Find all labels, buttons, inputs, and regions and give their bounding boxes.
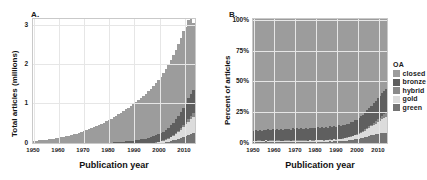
panel-a-gridline-x1960 (59, 19, 60, 143)
legend-swatch-gold (393, 96, 400, 103)
panel-a-ytick-1: 1 (12, 99, 28, 106)
legend-label-gold: gold (403, 95, 418, 104)
panel-a: A. Total articles (millions) 0 1 2 3 195… (0, 0, 213, 180)
panel-b-gridline-x1980 (316, 19, 317, 143)
panel-b-xtick-1970: 1970 (288, 147, 301, 153)
panel-b-ytick-100: 100% (227, 16, 249, 23)
panel-b-xlabel: Publication year (285, 160, 355, 170)
panel-b-gridline-y100 (253, 20, 387, 21)
panel-b: B. Percent of articles 0% 25% 50% 75% 10… (213, 0, 427, 180)
legend-label-green: green (403, 104, 423, 113)
legend-label-closed: closed (403, 70, 426, 79)
panel-b-gridline-x1950 (254, 19, 255, 143)
panel-b-ytick-0: 0% (227, 138, 249, 145)
panel-a-stacked-bars (33, 19, 196, 144)
panel-b-xtick-2010: 2010 (371, 147, 384, 153)
legend-label-hybrid: hybrid (403, 87, 425, 96)
panel-a-xtick-1990: 1990 (127, 147, 140, 153)
panel-a-xlabel: Publication year (79, 160, 149, 170)
legend-item-gold[interactable]: gold (393, 95, 426, 104)
legend-label-bronze: bronze (403, 78, 427, 87)
panel-a-gridline-y1 (33, 103, 195, 104)
legend-oa: OA closedbronzehybridgoldgreen (393, 61, 426, 112)
panel-a-xtick-1950: 1950 (26, 147, 39, 153)
legend-item-bronze[interactable]: bronze (393, 78, 426, 87)
panel-a-gridline-x2000 (160, 19, 161, 143)
panel-b-gridline-x1990 (337, 19, 338, 143)
panel-b-ytick-50: 50% (227, 77, 249, 84)
panel-a-gridline-y3 (33, 25, 195, 26)
panel-a-gridline-x1950 (34, 19, 35, 143)
panel-b-xtick-1990: 1990 (329, 147, 342, 153)
panel-a-gridline-x1990 (134, 19, 135, 143)
legend-items: closedbronzehybridgoldgreen (393, 70, 426, 113)
panel-a-ytick-0: 0 (12, 138, 28, 145)
panel-b-xtick-1960: 1960 (267, 147, 280, 153)
panel-b-gridline-y25 (253, 112, 387, 113)
legend-item-green[interactable]: green (393, 104, 426, 113)
legend-swatch-hybrid (393, 87, 400, 94)
legend-title: OA (393, 61, 426, 68)
panel-b-plot-area (252, 18, 388, 144)
legend-swatch-bronze (393, 79, 400, 86)
panel-b-xtick-1980: 1980 (308, 147, 321, 153)
panel-b-gridline-x2010 (379, 19, 380, 143)
panel-b-ytick-25: 25% (227, 107, 249, 114)
legend-swatch-closed (393, 70, 400, 77)
panel-a-xtick-1960: 1960 (51, 147, 64, 153)
panel-a-gridline-x1980 (109, 19, 110, 143)
legend-item-closed[interactable]: closed (393, 70, 426, 79)
panel-b-ylabel: Percent of articles (223, 56, 232, 125)
figure-open-access-articles: A. Total articles (millions) 0 1 2 3 195… (0, 0, 427, 180)
panel-a-gridline-y2 (33, 64, 195, 65)
panel-a-xtick-2000: 2000 (152, 147, 165, 153)
panel-a-xtick-2010: 2010 (177, 147, 190, 153)
panel-b-gridline-x2000 (358, 19, 359, 143)
legend-swatch-green (393, 104, 400, 111)
panel-a-gridline-x1970 (84, 19, 85, 143)
panel-a-ytick-3: 3 (12, 20, 28, 27)
panel-b-gridline-x1960 (274, 19, 275, 143)
panel-a-xtick-1980: 1980 (101, 147, 114, 153)
panel-a-ytick-2: 2 (12, 60, 28, 67)
panel-b-gridline-y75 (253, 51, 387, 52)
panel-b-gridline-y50 (253, 81, 387, 82)
legend-item-hybrid[interactable]: hybrid (393, 87, 426, 96)
panel-b-xtick-2000: 2000 (350, 147, 363, 153)
panel-a-plot-area (32, 18, 196, 144)
panel-b-gridline-x1970 (295, 19, 296, 143)
panel-a-xtick-1970: 1970 (76, 147, 89, 153)
panel-b-xtick-1950: 1950 (246, 147, 259, 153)
panel-b-ytick-75: 75% (227, 46, 249, 53)
panel-a-gridline-x2010 (185, 19, 186, 143)
